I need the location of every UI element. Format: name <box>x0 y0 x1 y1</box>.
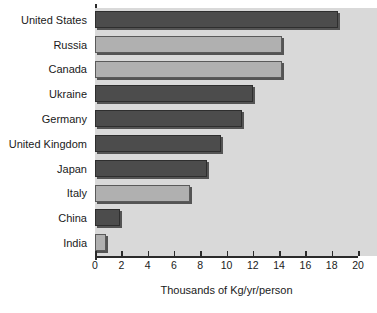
x-tick-label: 6 <box>171 259 177 271</box>
bar-slot <box>95 231 377 256</box>
category-label-row: Canada <box>0 58 92 83</box>
bar[interactable] <box>95 234 106 251</box>
category-label: Canada <box>48 64 87 75</box>
category-label: India <box>63 238 87 249</box>
x-tick-mark <box>148 251 150 256</box>
x-tick-label: 12 <box>247 259 259 271</box>
bar[interactable] <box>95 11 338 28</box>
x-tick-mark <box>305 251 307 256</box>
x-tick-label: 18 <box>326 259 338 271</box>
x-tick-label: 2 <box>118 259 124 271</box>
x-tick-label: 20 <box>352 259 364 271</box>
bar[interactable] <box>95 185 190 202</box>
category-label: Ukraine <box>49 89 87 100</box>
x-axis-title: Thousands of Kg/yr/person <box>95 284 358 296</box>
category-label-row: China <box>0 206 92 231</box>
x-tick-label: 10 <box>221 259 233 271</box>
category-label-row: Germany <box>0 107 92 132</box>
bar-slot <box>95 206 377 231</box>
category-axis: United StatesRussiaCanadaUkraineGermanyU… <box>0 8 92 256</box>
x-tick-mark <box>121 251 123 256</box>
bar[interactable] <box>95 36 282 53</box>
x-tick-mark <box>174 251 176 256</box>
x-tick-label: 14 <box>273 259 285 271</box>
x-tick-mark <box>227 251 229 256</box>
bar[interactable] <box>95 135 221 152</box>
bar-slot <box>95 157 377 182</box>
x-tick-mark <box>279 251 281 256</box>
plot-area <box>95 8 377 256</box>
category-label: Germany <box>42 114 87 125</box>
category-label: Russia <box>53 40 87 51</box>
x-tick-label: 16 <box>300 259 312 271</box>
bar-slot <box>95 33 377 58</box>
x-tick-mark <box>332 251 334 256</box>
bar-chart-figure: United StatesRussiaCanadaUkraineGermanyU… <box>0 0 377 313</box>
x-tick-mark <box>95 251 97 256</box>
bar-slot <box>95 132 377 157</box>
category-label-row: India <box>0 231 92 256</box>
category-label-row: Ukraine <box>0 82 92 107</box>
category-label: Italy <box>67 188 87 199</box>
x-tick-label: 0 <box>92 259 98 271</box>
bar[interactable] <box>95 61 282 78</box>
bar[interactable] <box>95 209 120 226</box>
category-label: United States <box>21 15 87 26</box>
x-tick-mark <box>253 251 255 256</box>
bar-slot <box>95 107 377 132</box>
category-label: United Kingdom <box>9 139 87 150</box>
x-tick-label: 4 <box>145 259 151 271</box>
bar[interactable] <box>95 110 242 127</box>
bar-slot <box>95 82 377 107</box>
category-label-row: Russia <box>0 33 92 58</box>
category-label-row: United Kingdom <box>0 132 92 157</box>
category-label: Japan <box>57 164 87 175</box>
bar[interactable] <box>95 160 207 177</box>
axis-baseline <box>95 256 358 258</box>
x-tick-mark <box>358 251 360 256</box>
category-label-row: Italy <box>0 182 92 207</box>
value-axis: 02468101214161820 <box>95 256 377 286</box>
bar-slot <box>95 58 377 83</box>
category-label: China <box>58 213 87 224</box>
x-tick-label: 8 <box>197 259 203 271</box>
bars-layer <box>95 8 377 256</box>
x-tick-mark <box>200 251 202 256</box>
category-label-row: United States <box>0 8 92 33</box>
bar-slot <box>95 8 377 33</box>
category-label-row: Japan <box>0 157 92 182</box>
bar-slot <box>95 182 377 207</box>
bar[interactable] <box>95 85 253 102</box>
